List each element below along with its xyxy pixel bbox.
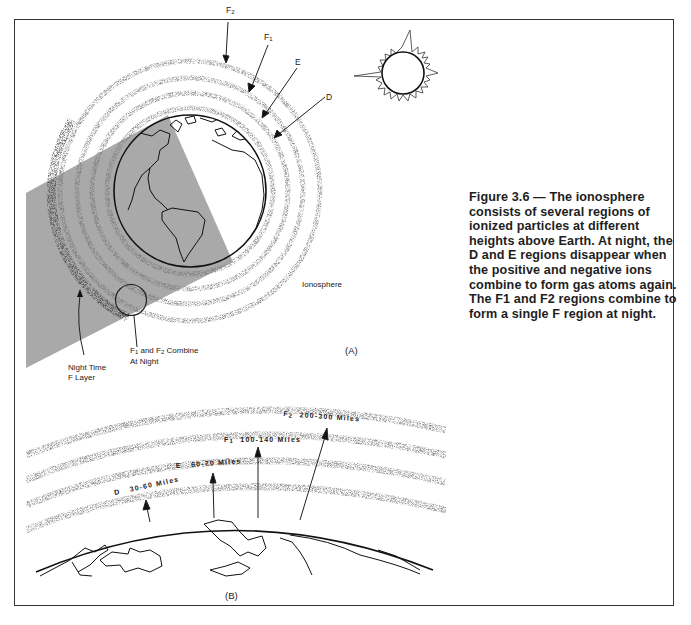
continent-outlines <box>40 520 420 576</box>
label-f1: F1 <box>264 32 273 44</box>
layer-f1-range-label: F1 100-140 Miles <box>224 436 301 444</box>
panel-a-label: (A) <box>345 345 358 356</box>
ionosphere-label: Ionosphere <box>302 280 342 290</box>
combine-label: F1 and F2 Combine At Night <box>130 346 199 367</box>
sun-icon <box>354 30 438 101</box>
panel-a <box>26 22 438 368</box>
label-d: D <box>326 92 332 102</box>
label-e: E <box>295 57 301 67</box>
panel-b-label: (B) <box>225 590 238 601</box>
label-f2: F2 <box>226 5 235 17</box>
panel-b <box>26 410 446 576</box>
figure-caption: Figure 3.6 — The ionosphere consists of … <box>469 190 679 321</box>
night-time-label: Night Time F Layer <box>68 363 106 383</box>
